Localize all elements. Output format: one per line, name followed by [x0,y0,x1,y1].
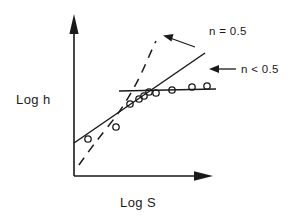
dashed-curve-path [79,41,156,165]
y-axis-label: Log h [16,92,51,107]
n-less-than-label: n < 0.5 [241,63,279,75]
n-equals-leader-line [170,38,195,47]
annotation-n-equals: n = 0.5 [163,25,247,47]
series-n-less-than-0-5 [74,53,205,143]
annotation-n-less-than: n < 0.5 [209,63,279,75]
data-point [113,124,119,130]
n-less-than-leader-arrowhead-icon [209,65,219,73]
n-equals-label: n = 0.5 [209,25,247,37]
n-equals-leader-arrowhead-icon [163,34,174,42]
data-point [85,136,91,142]
x-axis-arrowhead-icon [194,171,213,181]
plateau-line [119,89,216,91]
y-axis-arrowhead-icon [69,14,78,34]
x-axis-label: Log S [120,195,156,210]
solid-fit-line [74,53,205,143]
series-plateau [119,89,216,91]
series-n-equals-0-5 [79,41,156,165]
figure-container: n = 0.5 n < 0.5 Log h Log S [0,0,306,219]
data-point [204,83,210,89]
plot-canvas: n = 0.5 n < 0.5 Log h Log S [0,0,306,219]
